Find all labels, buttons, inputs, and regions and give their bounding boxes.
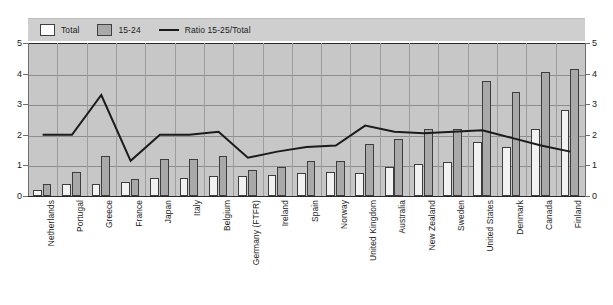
- category-separator: [350, 43, 351, 196]
- legend-label-15-24: 15-24: [118, 25, 140, 35]
- bar-15-24: [160, 159, 169, 196]
- x-axis-label: Denmark: [515, 200, 525, 235]
- legend-label-ratio: Ratio 15-25/Total: [185, 25, 251, 35]
- x-axis-label: Canada: [544, 200, 554, 230]
- bar-total: [62, 184, 71, 196]
- y-tick-left-0: 0: [2, 191, 22, 201]
- chart-legend: Total 15-24 Ratio 15-25/Total: [28, 18, 585, 41]
- bar-15-24: [219, 156, 228, 196]
- y-tick-left-3: 3: [2, 99, 22, 109]
- bar-15-24: [482, 81, 491, 196]
- y-tick-mark-right-5: [585, 43, 590, 44]
- bar-15-24: [277, 167, 286, 196]
- white-square-icon: [40, 24, 55, 36]
- bar-15-24: [424, 129, 433, 196]
- category-separator: [409, 43, 410, 196]
- bar-total: [473, 142, 482, 196]
- bar-total: [238, 176, 247, 196]
- y-tick-mark-right-4: [585, 74, 590, 75]
- bar-15-24: [101, 156, 110, 196]
- y-tick-right-5: 5: [592, 38, 612, 48]
- x-axis-label: Norway: [339, 200, 349, 229]
- category-separator: [438, 43, 439, 196]
- bar-15-24: [307, 161, 316, 196]
- y-tick-mark-right-0: [585, 196, 590, 197]
- bar-15-24: [336, 161, 345, 196]
- category-separator: [87, 43, 88, 196]
- bars-layer: [28, 43, 585, 196]
- legend-item-total: Total: [40, 24, 79, 36]
- bar-15-24: [248, 170, 257, 196]
- x-axis-label: Portugal: [75, 200, 85, 232]
- y-tick-right-3: 3: [592, 99, 612, 109]
- x-axis-label: Germany (FTFR): [251, 200, 261, 265]
- legend-item-ratio: Ratio 15-25/Total: [159, 25, 251, 35]
- y-tick-left-5: 5: [2, 38, 22, 48]
- x-axis-label: France: [134, 200, 144, 227]
- x-axis-label: Ireland: [280, 200, 290, 226]
- y-tick-mark-left-2: [23, 135, 28, 136]
- bar-total: [531, 129, 540, 196]
- y-tick-mark-left-0: [23, 196, 28, 197]
- bar-15-24: [541, 72, 550, 196]
- bar-total: [355, 173, 364, 196]
- category-separator: [292, 43, 293, 196]
- bar-total: [414, 164, 423, 196]
- chart-container: Total 15-24 Ratio 15-25/Total 0011223344…: [0, 0, 613, 305]
- y-tick-right-4: 4: [592, 69, 612, 79]
- bar-total: [297, 173, 306, 196]
- category-separator: [57, 43, 58, 196]
- x-axis-label: Spain: [310, 200, 320, 222]
- x-axis-labels: NetherlandsPortugalGreeceFranceJapanItal…: [28, 198, 585, 298]
- y-axis-right: [585, 43, 586, 196]
- bar-total: [502, 147, 511, 196]
- bar-total: [180, 178, 189, 196]
- x-axis-label: Italy: [192, 200, 202, 216]
- category-separator: [263, 43, 264, 196]
- bar-total: [209, 176, 218, 196]
- gray-square-icon: [97, 24, 112, 36]
- bar-15-24: [512, 92, 521, 196]
- bar-total: [268, 175, 277, 196]
- category-separator: [233, 43, 234, 196]
- x-axis-label: United Kingdom: [368, 200, 378, 261]
- x-axis-label: Greece: [104, 200, 114, 228]
- x-axis-label: Finland: [573, 200, 583, 228]
- legend-label-total: Total: [61, 25, 79, 35]
- category-separator: [145, 43, 146, 196]
- y-tick-mark-right-1: [585, 165, 590, 166]
- category-separator: [380, 43, 381, 196]
- bar-15-24: [43, 184, 52, 196]
- x-axis-label: Sweden: [456, 200, 466, 231]
- y-tick-mark-right-2: [585, 135, 590, 136]
- y-tick-right-1: 1: [592, 160, 612, 170]
- category-separator: [468, 43, 469, 196]
- category-separator: [116, 43, 117, 196]
- category-separator: [497, 43, 498, 196]
- y-tick-left-2: 2: [2, 130, 22, 140]
- x-axis-label: United States: [485, 200, 495, 252]
- bar-total: [92, 184, 101, 196]
- bar-total: [443, 162, 452, 196]
- y-tick-mark-left-1: [23, 165, 28, 166]
- y-axis-left: [28, 43, 29, 196]
- y-tick-mark-right-3: [585, 104, 590, 105]
- x-axis-label: Australia: [397, 200, 407, 233]
- x-axis-label: Japan: [163, 200, 173, 223]
- category-separator: [175, 43, 176, 196]
- x-axis-label: Netherlands: [46, 200, 56, 246]
- bar-15-24: [570, 69, 579, 196]
- bar-15-24: [365, 144, 374, 196]
- bar-total: [326, 172, 335, 196]
- bar-total: [121, 182, 130, 196]
- bar-total: [385, 167, 394, 196]
- bar-15-24: [189, 159, 198, 196]
- bar-15-24: [72, 172, 81, 196]
- y-tick-right-0: 0: [592, 191, 612, 201]
- bar-total: [150, 178, 159, 196]
- y-tick-left-4: 4: [2, 69, 22, 79]
- bar-total: [561, 110, 570, 196]
- x-axis: [28, 196, 585, 197]
- legend-item-15-24: 15-24: [97, 24, 140, 36]
- category-separator: [204, 43, 205, 196]
